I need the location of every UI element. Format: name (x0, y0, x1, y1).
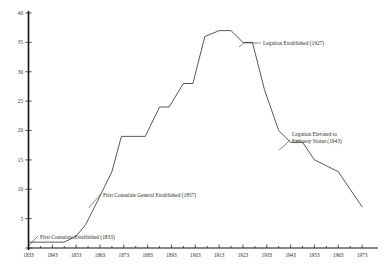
x-axis-tick-label: 1943 (285, 252, 296, 258)
annotation-label: Legation Established (1927) (263, 40, 324, 47)
x-axis-tick-label: 1863 (95, 252, 106, 258)
x-axis-tick-label: 1883 (142, 252, 153, 258)
x-axis-tick-label: 1843 (47, 252, 58, 258)
x-axis-tick-label: 1913 (214, 252, 225, 258)
x-axis-tick-label: 1933 (262, 252, 273, 258)
x-axis-tick-label: 1833 (23, 252, 34, 258)
line-chart: 510152025303540 183318431853186318731883… (0, 0, 391, 270)
y-axis-tick-label: 25 (18, 98, 24, 104)
annotation-line: Legation Elevated to (292, 131, 337, 137)
annotation-label: Legation Elevated toEmbassy Status (1943… (292, 131, 342, 145)
x-axis-tick-label: 1923 (238, 252, 249, 258)
x-axis-tick-label: 1973 (357, 252, 368, 258)
x-axis-tick-label: 1953 (309, 252, 320, 258)
annotation-label: First Consulate General Established (185… (103, 192, 196, 199)
x-axis-tick-label: 1963 (333, 252, 344, 258)
chart-container: 510152025303540 183318431853186318731883… (0, 0, 391, 270)
y-axis-tick-label: 30 (18, 69, 24, 75)
annotation-line: First Consulate Established (1833) (40, 234, 115, 241)
x-axis: 1833184318531863187318831893190319131923… (23, 245, 378, 258)
annotations: First Consulate Established (1833)First … (29, 40, 342, 246)
annotation-leader-line (279, 140, 290, 150)
y-axis-tick-label: 15 (18, 157, 24, 163)
annotation-leader-line (29, 236, 38, 246)
annotation-leader-line (239, 43, 261, 47)
y-axis: 510152025303540 (18, 10, 32, 250)
annotation-label: First Consulate Established (1833) (40, 234, 115, 241)
annotation-line: Embassy Status (1943) (292, 138, 342, 145)
y-axis-tick-label: 20 (18, 127, 24, 133)
annotation-line: Legation Established (1927) (263, 40, 324, 47)
annotation-line: First Consulate General Established (185… (103, 192, 196, 199)
y-axis-tick-label: 5 (20, 216, 23, 222)
x-axis-tick-label: 1873 (119, 252, 130, 258)
y-axis-tick-label: 35 (18, 39, 24, 45)
y-axis-tick-label: 10 (18, 186, 24, 192)
y-axis-tick-label: 40 (18, 10, 24, 16)
x-axis-tick-label: 1893 (166, 252, 177, 258)
x-axis-tick-label: 1853 (71, 252, 82, 258)
x-axis-tick-label: 1903 (190, 252, 201, 258)
